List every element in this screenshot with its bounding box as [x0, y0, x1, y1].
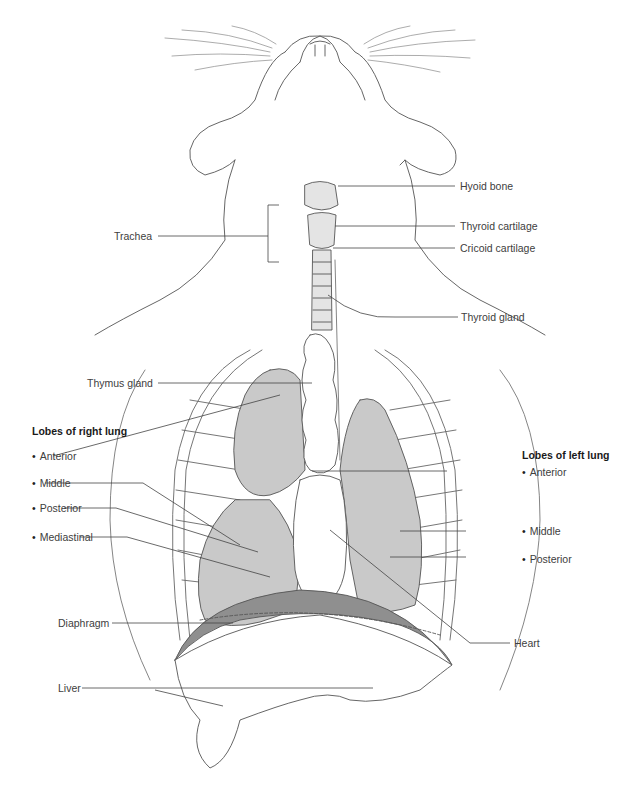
label-left-posterior: Posterior [522, 553, 572, 565]
label-heart: Heart [514, 637, 540, 649]
label-right-posterior: Posterior [32, 502, 82, 514]
larynx [305, 182, 338, 211]
heading-right-lung: Lobes of right lung [32, 425, 127, 437]
label-thymus-gland: Thymus gland [87, 377, 153, 389]
cat-anatomy-illustration [0, 0, 639, 795]
head-outline [190, 36, 456, 175]
label-trachea: Trachea [114, 230, 152, 242]
label-right-anterior: Anterior [32, 450, 76, 462]
heart [293, 475, 346, 605]
left-lung [340, 399, 422, 613]
heading-left-lung: Lobes of left lung [522, 449, 610, 461]
label-right-middle: Middle [32, 477, 71, 489]
label-liver: Liver [58, 682, 81, 694]
label-diaphragm: Diaphragm [58, 617, 109, 629]
thymus [302, 334, 339, 473]
liver [175, 615, 452, 768]
label-cricoid-cartilage: Cricoid cartilage [460, 242, 535, 254]
label-left-anterior: Anterior [522, 466, 566, 478]
label-left-middle: Middle [522, 525, 561, 537]
right-lung [198, 369, 305, 626]
label-hyoid-bone: Hyoid bone [460, 180, 513, 192]
label-right-mediastinal: Mediastinal [32, 531, 93, 543]
label-thyroid-cartilage: Thyroid cartilage [460, 220, 538, 232]
whiskers [165, 26, 475, 72]
label-thyroid-gland: Thyroid gland [461, 311, 525, 323]
